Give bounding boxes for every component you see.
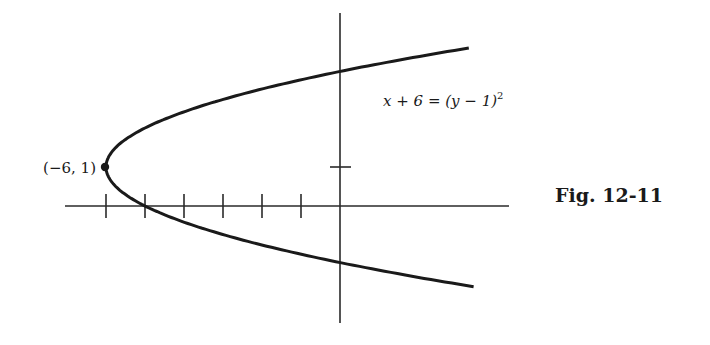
parabola-figure: (−6, 1) x + 6 = (y − 1)2 Fig. 12-11 (0, 0, 710, 345)
figure-caption: Fig. 12-11 (555, 184, 663, 206)
equation-main: x + 6 = (y − 1) (383, 92, 497, 110)
equation-label: x + 6 = (y − 1)2 (383, 90, 503, 110)
vertex-label: (−6, 1) (43, 159, 96, 177)
vertex-point (101, 163, 109, 171)
equation-exponent: 2 (497, 90, 503, 101)
parabola-curve (106, 48, 474, 287)
